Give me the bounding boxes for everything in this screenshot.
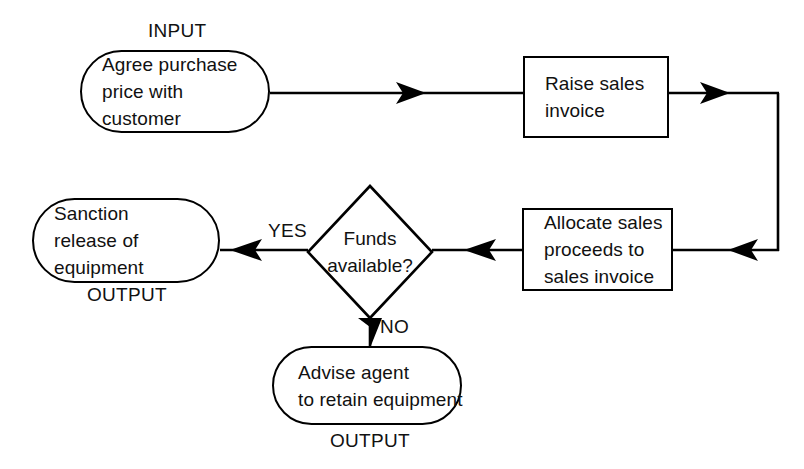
decision-text: Funds available? [308,186,432,318]
node-line: Agree purchase [102,51,268,78]
node-line: to retain equipment [298,386,460,413]
node-line: customer [102,105,268,132]
node-line: price with [102,78,268,105]
node-line: Funds [344,225,397,252]
edge-label-no: NO [380,316,409,338]
node-funds-available[interactable]: Funds available? [308,186,432,318]
arrowhead-decision-to-advise [358,318,382,348]
node-raise-sales-invoice[interactable]: Raise sales invoice [523,56,669,138]
node-advise-agent-retain-equipment[interactable]: Advise agent to retain equipment [272,346,462,425]
node-line: invoice [545,97,667,124]
flowchart-canvas: INPUT Agree purchase price with customer… [0,0,804,469]
node-sanction-release-equipment[interactable]: Sanction release of equipment [32,198,220,283]
node-allocate-sales-proceeds[interactable]: Allocate sales proceeds to sales invoice [522,208,673,291]
node-agree-purchase-price[interactable]: Agree purchase price with customer [80,50,270,133]
output-label-advise-agent: OUTPUT [330,430,410,452]
node-line: Advise agent [298,359,460,386]
node-line: Raise sales [545,70,667,97]
input-label-agree-purchase: INPUT [148,20,207,42]
edge-label-yes: YES [268,220,307,242]
node-line: available? [327,252,413,279]
node-line: Sanction [54,200,218,227]
node-line: release of [54,227,218,254]
node-line: equipment [54,254,218,281]
output-label-sanction-release: OUTPUT [87,284,167,306]
node-line: sales invoice [544,263,671,290]
node-line: Allocate sales [544,209,671,236]
node-line: proceeds to [544,236,671,263]
